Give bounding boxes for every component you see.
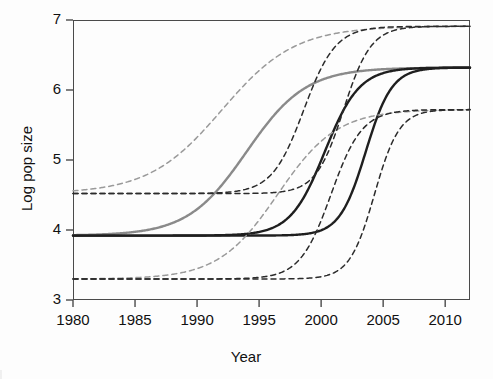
y-tick-label-6: 6 <box>35 80 61 97</box>
x-tick-label-1995: 1995 <box>229 311 289 328</box>
curve-6 <box>73 26 470 193</box>
curve-2 <box>73 68 470 236</box>
curve-1 <box>73 68 470 236</box>
x-tick-label-2010: 2010 <box>415 311 475 328</box>
y-tick-label-4: 4 <box>35 220 61 237</box>
y-tick-label-7: 7 <box>35 10 61 27</box>
curve-0 <box>73 68 470 235</box>
y-tick-label-5: 5 <box>35 150 61 167</box>
curve-5 <box>73 26 470 193</box>
x-tick-label-1980: 1980 <box>43 311 103 328</box>
curve-8 <box>73 110 470 279</box>
scan-artifact <box>0 370 493 379</box>
x-axis-label: Year <box>196 348 296 365</box>
chart-figure: 34567 1980198519901995200020052010 Log p… <box>0 0 493 379</box>
x-tick-label-2005: 2005 <box>353 311 413 328</box>
curve-3 <box>73 26 470 190</box>
x-tick-label-1990: 1990 <box>167 311 227 328</box>
x-tick-label-2000: 2000 <box>291 311 351 328</box>
curve-7 <box>73 110 470 279</box>
curve-group <box>73 26 470 279</box>
x-tick-label-1985: 1985 <box>105 311 165 328</box>
y-tick-label-3: 3 <box>35 290 61 307</box>
axis-ticks <box>66 20 445 307</box>
curve-4 <box>73 110 470 279</box>
y-axis-label: Log pop size <box>18 99 35 239</box>
